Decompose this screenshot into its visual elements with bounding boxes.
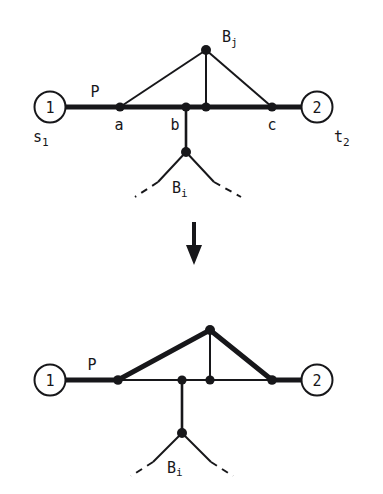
vertex-a bbox=[115, 102, 124, 111]
after-path-label: P bbox=[87, 356, 96, 374]
vertex-b bbox=[181, 102, 190, 111]
vertex-mid bbox=[201, 102, 210, 111]
bi-leg-right bbox=[182, 433, 211, 462]
panel-before: 1 2 s1 t2 P a b c Bj Bi bbox=[33, 28, 350, 200]
arrow-head bbox=[186, 245, 202, 265]
vertex-bj bbox=[201, 45, 211, 55]
before-label-bj-sub: j bbox=[231, 36, 238, 49]
edge-bj-to-a bbox=[120, 50, 206, 107]
before-terminal-right-name-base: t bbox=[334, 128, 343, 146]
after-vertices bbox=[113, 325, 277, 438]
before-terminal-right-name-sub: 2 bbox=[343, 136, 350, 149]
before-terminal-left-name: s1 bbox=[33, 128, 49, 149]
before-label-bj-base: B bbox=[222, 28, 231, 46]
after-label-bi: Bi bbox=[167, 459, 183, 479]
vertex-b bbox=[177, 375, 186, 384]
bi-leg-left-dashed bbox=[135, 182, 158, 197]
vertex-mid bbox=[205, 375, 214, 384]
bi-leg-right-dashed bbox=[211, 462, 233, 476]
before-vertices bbox=[115, 45, 276, 157]
before-label-bi: Bi bbox=[172, 179, 188, 200]
before-terminal-right-name: t2 bbox=[334, 128, 350, 149]
vertex-bi bbox=[177, 428, 187, 438]
vertex-a bbox=[113, 375, 123, 385]
vertex-c bbox=[267, 102, 276, 111]
transform-arrow bbox=[186, 222, 202, 265]
bi-leg-left bbox=[153, 433, 182, 462]
before-label-c: c bbox=[267, 116, 276, 134]
vertex-apex bbox=[205, 325, 215, 335]
after-node-2-number: 2 bbox=[312, 372, 321, 390]
before-terminal-left-name-sub: 1 bbox=[42, 136, 49, 149]
before-label-bi-base: B bbox=[172, 179, 181, 197]
edge-bj-to-c bbox=[206, 50, 272, 107]
figure-canvas: 1 2 s1 t2 P a b c Bj Bi bbox=[0, 0, 383, 494]
before-branch-bj-edges bbox=[120, 50, 272, 107]
before-branch-bi-legs bbox=[135, 152, 241, 197]
bi-leg-left bbox=[158, 152, 186, 182]
after-path-p bbox=[65, 330, 302, 380]
panel-after: 1 2 P Bi bbox=[35, 325, 333, 479]
vertex-c bbox=[267, 375, 277, 385]
before-node-2-number: 2 bbox=[312, 99, 321, 117]
bi-leg-right bbox=[186, 152, 214, 182]
after-label-bi-sub: i bbox=[176, 466, 183, 479]
after-node-1-number: 1 bbox=[45, 372, 54, 390]
before-node-1-number: 1 bbox=[45, 99, 54, 117]
after-label-bi-base: B bbox=[167, 459, 176, 477]
before-label-bj: Bj bbox=[222, 28, 238, 49]
bi-leg-right-dashed bbox=[214, 182, 241, 197]
bi-leg-left-dashed bbox=[131, 462, 153, 476]
before-path-label: P bbox=[90, 83, 99, 101]
before-label-a: a bbox=[114, 116, 123, 134]
before-terminal-left-name-base: s bbox=[33, 128, 42, 146]
vertex-bi bbox=[181, 147, 191, 157]
before-label-bi-sub: i bbox=[181, 187, 188, 200]
before-label-b: b bbox=[170, 116, 179, 134]
